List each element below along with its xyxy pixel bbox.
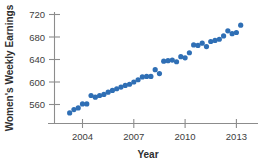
data-point — [157, 71, 162, 76]
x-tick-label-2010: 2010 — [175, 131, 196, 142]
data-point — [148, 74, 153, 79]
x-tick-label-2004: 2004 — [72, 131, 93, 142]
y-axis-tick-labels: 720 680 640 600 560 — [29, 9, 45, 110]
y-tick-label-680: 680 — [29, 32, 45, 43]
data-point — [221, 33, 226, 38]
data-point — [76, 105, 81, 110]
x-axis-title: Year — [137, 149, 158, 160]
y-tick-label-640: 640 — [29, 54, 45, 65]
data-point — [200, 41, 205, 46]
data-point — [84, 101, 89, 106]
data-point — [183, 55, 188, 60]
x-tick-label-2013: 2013 — [226, 131, 247, 142]
y-tick-label-600: 600 — [29, 77, 45, 88]
y-tick-label-720: 720 — [29, 9, 45, 20]
x-axis-tick-labels: 2004 2007 2010 2013 — [72, 131, 247, 142]
scatter-plot-figure: 720 680 640 600 560 2004 2007 2010 2013 … — [0, 0, 270, 167]
data-point — [204, 44, 209, 49]
data-point — [135, 77, 140, 82]
data-point — [174, 59, 179, 64]
data-point — [225, 28, 230, 33]
data-points-group — [67, 23, 243, 116]
data-point — [187, 50, 192, 55]
data-point — [234, 30, 239, 35]
data-point — [153, 67, 158, 72]
chart-canvas: 720 680 640 600 560 2004 2007 2010 2013 … — [0, 0, 270, 167]
x-tick-label-2007: 2007 — [123, 131, 144, 142]
data-point — [238, 23, 243, 28]
data-point — [67, 110, 72, 115]
y-tick-label-560: 560 — [29, 99, 45, 110]
data-point — [217, 37, 222, 42]
y-axis-title: Women's Weekly Earnings — [4, 4, 15, 131]
